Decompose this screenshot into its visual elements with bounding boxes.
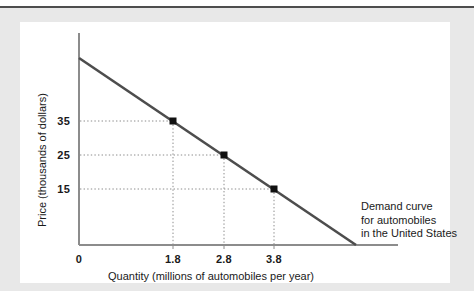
ytick-label-35: 35 [48, 115, 70, 127]
origin-label: 0 [69, 253, 89, 265]
data-point-3 [271, 186, 278, 193]
data-point-1 [170, 118, 177, 125]
xtick-label-1-8: 1.8 [159, 253, 187, 265]
data-point-2 [221, 152, 228, 159]
annotation-line-3: in the United States [361, 227, 457, 241]
plot-area: 35 25 15 0 1.8 2.8 3.8 Quantity (million… [20, 22, 450, 283]
xtick-label-2-8: 2.8 [210, 253, 238, 265]
demand-curve-annotation: Demand curve for automobiles in the Unit… [361, 200, 457, 241]
y-axis-title: Price (thousands of dollars) [36, 93, 48, 227]
annotation-line-2: for automobiles [361, 214, 457, 228]
xtick-label-3-8: 3.8 [260, 253, 288, 265]
figure-root: 35 25 15 0 1.8 2.8 3.8 Quantity (million… [0, 0, 474, 298]
chart-svg [20, 22, 450, 283]
chart-panel: 35 25 15 0 1.8 2.8 3.8 Quantity (million… [20, 22, 450, 283]
demand-curve-line [79, 58, 356, 245]
ytick-label-15: 15 [48, 183, 70, 195]
ytick-label-25: 25 [48, 149, 70, 161]
x-axis-title: Quantity (millions of automobiles per ye… [108, 270, 314, 282]
annotation-line-1: Demand curve [361, 200, 457, 214]
